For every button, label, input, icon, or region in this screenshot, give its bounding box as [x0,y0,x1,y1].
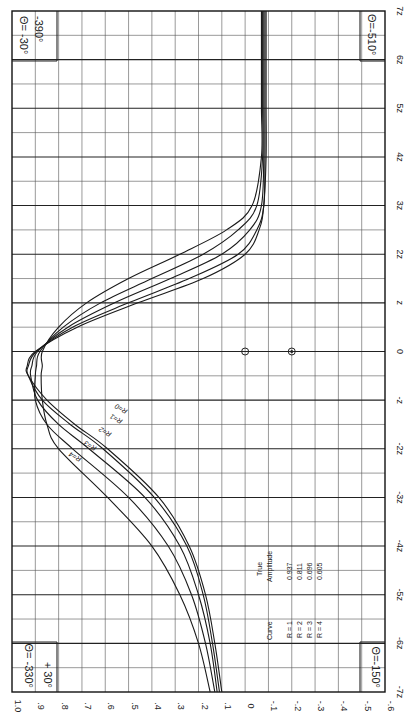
amplitude-tick: .5 [130,702,140,710]
legend-cell: 0.696 [306,562,313,580]
legend-cell: True [256,562,263,576]
legend-cell: 0.605 [316,562,323,580]
amplitude-tick: .4 [153,702,163,710]
amplitude-tick: -.6 [386,701,396,712]
amplitude-tick: -.1 [269,701,279,712]
amplitude-tick: .3 [176,702,186,710]
z-tick: 2z [395,249,405,259]
grid [12,11,385,692]
amplitude-tick: -.4 [339,701,349,712]
amplitude-tick: -.3 [316,701,326,712]
curve-label: R=3 [83,440,98,453]
rotated-amplitude-chart: 1.0.9.8.7.6.5.4.3.2.10-.1-.2-.3-.4-.5-.6… [0,0,410,718]
corner-label: Θ= -30° [18,16,30,54]
z-tick: z [395,301,405,306]
amplitude-tick-labels: 1.0.9.8.7.6.5.4.3.2.10-.1-.2-.3-.4-.5-.6 [13,700,396,713]
z-tick: -2z [395,443,405,456]
amplitude-tick: .7 [83,702,93,710]
z-tick: 6z [395,55,405,65]
amplitude-tick: 1.0 [13,700,23,713]
corner-label: Θ= -330° [23,644,35,688]
z-tick: -z [395,396,405,404]
amplitude-tick: .8 [60,702,70,710]
corner-label: Θ=-150° [370,647,382,688]
z-tick: -5z [395,588,405,601]
z-tick: -6z [395,637,405,650]
corner-label: Θ=-510° [366,14,378,55]
z-tick: -4z [395,540,405,553]
z-tick: 5z [395,104,405,114]
legend-cell: R = 1 [286,621,293,638]
z-tick: -3z [395,491,405,504]
corner-label: + 30° [42,662,54,688]
amplitude-tick: .6 [106,702,116,710]
legend-cell: 0.937 [286,562,293,580]
legend-cell: Amplitude [266,551,274,582]
amplitude-tick: -.5 [363,701,373,712]
legend-cell: R = 3 [306,621,313,638]
amplitude-tick: .1 [223,702,233,710]
z-tick-labels: -7z-6z-5z-4z-3z-2z-z0z2z3z4z5z6z7z [395,6,405,699]
legend-cell: R = 2 [296,621,303,638]
corner-label: -390° [33,16,45,42]
amplitude-tick: .2 [200,702,210,710]
legend-cell: Curve [266,621,273,640]
z-tick: 0 [395,349,405,354]
curve-labels: R=0R=1R=2R=3R=4 [68,403,129,464]
legend-table: CurveTrueAmplitudeR = 10.937R = 20.811R … [256,551,323,640]
amplitude-tick: .9 [36,702,46,710]
z-tick: 3z [395,201,405,211]
z-tick: -7z [395,686,405,699]
curve-label: R=1 [109,413,124,426]
amplitude-tick: -.2 [293,701,303,712]
z-tick: 7z [395,6,405,16]
marker-dot-icon [290,350,293,353]
legend-cell: 0.811 [296,563,303,580]
amplitude-tick: 0 [246,703,256,708]
z-tick: 4z [395,152,405,162]
curve-label: R=0 [114,403,129,416]
legend-cell: R = 4 [316,621,323,638]
